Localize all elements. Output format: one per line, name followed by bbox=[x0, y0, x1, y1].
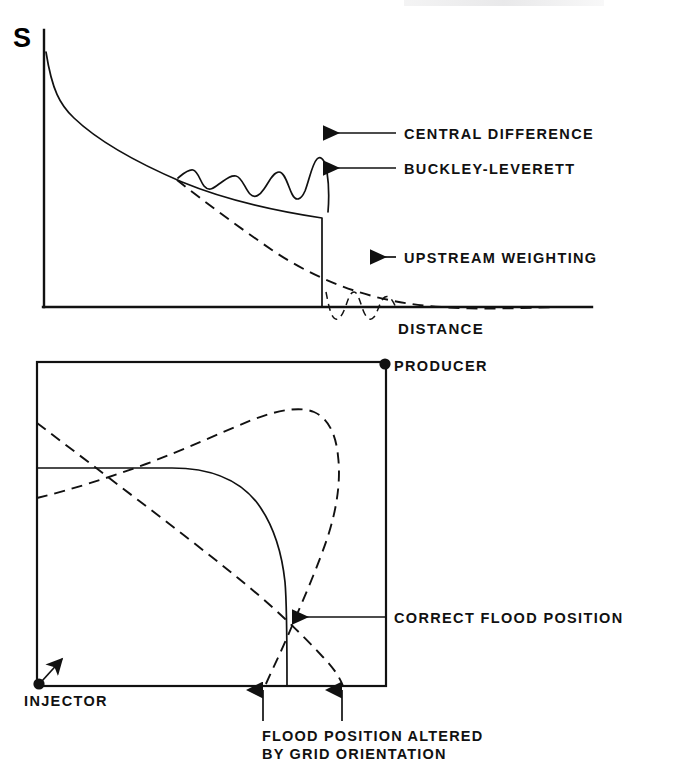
caption-line-2: BY GRID ORIENTATION bbox=[262, 746, 447, 762]
series-central-difference bbox=[178, 158, 329, 212]
label-injector: INJECTOR bbox=[24, 693, 108, 709]
figure-root: CENTRAL DIFFERENCE BUCKLEY-LEVERETT UPST… bbox=[0, 0, 690, 768]
annotation-central-difference: CENTRAL DIFFERENCE bbox=[323, 126, 594, 142]
series-grid-oriented-front-a bbox=[37, 409, 339, 686]
series-central-difference-downstream bbox=[326, 292, 397, 319]
label-central-difference: CENTRAL DIFFERENCE bbox=[404, 126, 594, 142]
producer-well-dot bbox=[379, 358, 390, 369]
label-correct-flood-position: CORRECT FLOOD POSITION bbox=[394, 610, 623, 626]
producer-marker-group: PRODUCER bbox=[379, 358, 487, 374]
annotation-buckley-leverett: BUCKLEY-LEVERETT bbox=[323, 161, 575, 177]
series-correct-flood-position bbox=[37, 468, 287, 686]
label-distance-axis: DISTANCE bbox=[398, 320, 484, 337]
label-upstream-weighting: UPSTREAM WEIGHTING bbox=[404, 250, 597, 266]
five-spot-pattern-box bbox=[37, 362, 386, 686]
series-buckley-leverett bbox=[46, 52, 322, 307]
top-chart-group: CENTRAL DIFFERENCE BUCKLEY-LEVERETT UPST… bbox=[13, 23, 597, 337]
label-buckley-leverett: BUCKLEY-LEVERETT bbox=[404, 161, 575, 177]
annotation-upstream-weighting: UPSTREAM WEIGHTING bbox=[370, 250, 597, 266]
bottom-chart-group: PRODUCER INJECTOR CORRECT FLOOD POSITION… bbox=[24, 358, 623, 762]
annotation-altered-flood-position: FLOOD POSITION ALTERED BY GRID ORIENTATI… bbox=[262, 690, 483, 762]
series-grid-oriented-front-b bbox=[37, 423, 343, 686]
annotation-correct-flood-position: CORRECT FLOOD POSITION bbox=[292, 610, 623, 626]
technical-figure: CENTRAL DIFFERENCE BUCKLEY-LEVERETT UPST… bbox=[0, 0, 690, 768]
label-producer: PRODUCER bbox=[394, 358, 488, 374]
label-saturation-axis: S bbox=[13, 23, 31, 53]
caption-line-1: FLOOD POSITION ALTERED bbox=[262, 728, 483, 744]
injector-flow-arrow bbox=[42, 659, 62, 681]
